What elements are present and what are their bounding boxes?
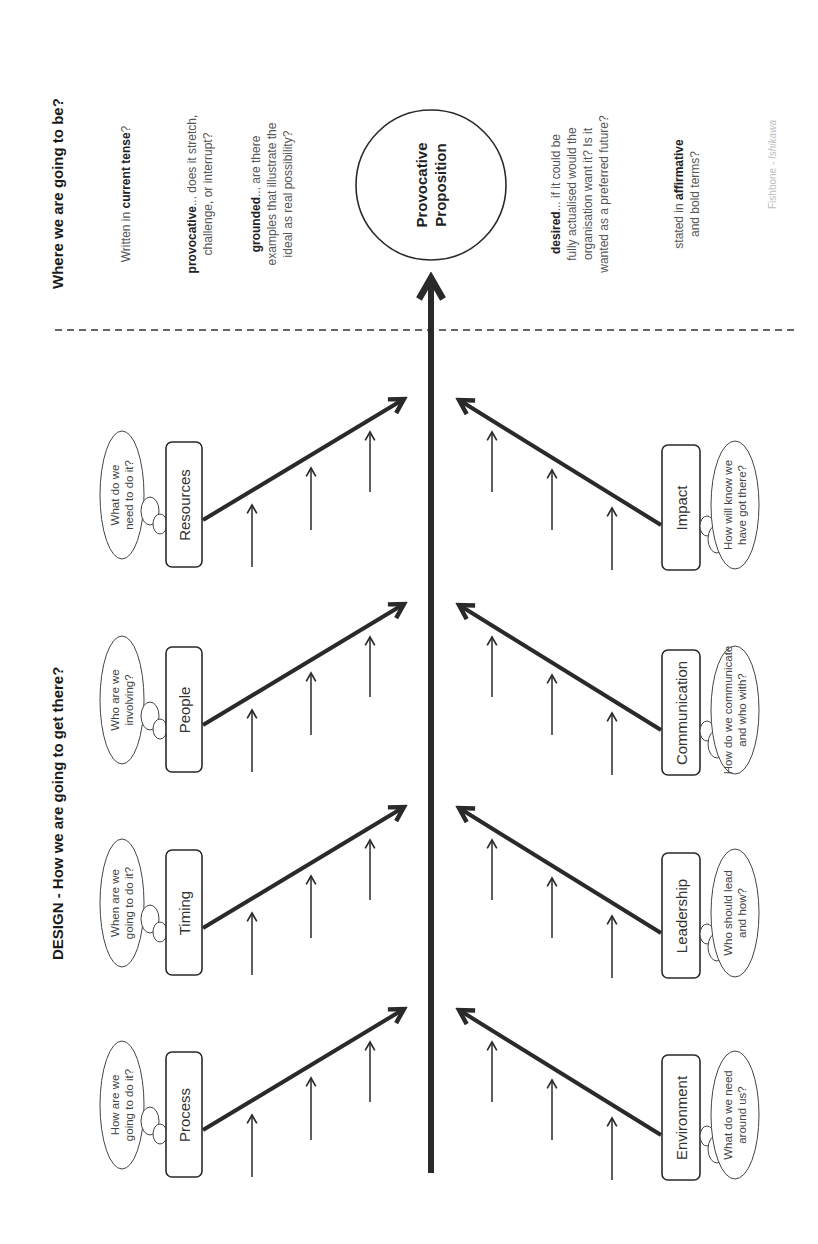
branch-impact: Impact How will know we have got there? [459,400,759,570]
branch-label: Resources [176,469,193,541]
svg-text:wanted as a preferred future?: wanted as a preferred future? [597,115,611,274]
branch-label: Process [176,1088,193,1142]
branch-people: Who are we involving? People [100,604,404,772]
branch-label: Communication [673,661,690,765]
head-label-line1: Provocative [413,142,430,227]
criterion-grounded: grounded... are there examples that illu… [249,122,295,265]
svg-text:and bold terms?: and bold terms? [688,151,702,237]
svg-text:examples that illustrate the: examples that illustrate the [265,122,279,265]
branch-question-line1: What do we [109,465,121,526]
branch-timing: When are we going to do it? Timing [100,807,404,975]
credit-text: Fishbone - Ishikawa [767,120,778,209]
branch-question-line2: going to do it? [123,1069,135,1141]
fishbone-diagram: DESIGN - How we are going to get there? … [0,0,818,1244]
provocative-proposition-circle: Provocative Proposition [356,110,506,260]
branch-question-line1: Who should lead [722,870,734,956]
svg-text:organisation want it? Is it: organisation want it? Is it [581,127,595,260]
branch-label: People [176,687,193,734]
branch-question-line1: When are we [109,869,121,937]
branch-process: How are we going to do it? Process [100,1009,404,1177]
branch-question-line2: and who with? [736,673,748,747]
svg-text:desired... if it could be: desired... if it could be [549,134,563,254]
svg-text:stated in affirmative: stated in affirmative [672,139,686,249]
branch-label: Environment [673,1075,690,1160]
branch-communication: Communication How do we communicate and … [459,605,759,775]
branch-question-line1: How will know we [722,460,734,550]
branch-resources: What do we need to do it? Resources [100,399,404,567]
branch-question-line2: involving? [123,674,135,725]
criterion-affirmative: stated in affirmative and bold terms? [672,139,702,249]
branch-question-line2: and how? [736,888,748,938]
branch-question-line2: around us? [736,1086,748,1144]
branch-label: Leadership [673,879,690,953]
branch-leadership: Leadership Who should lead and how? [459,808,759,978]
head-label-line2: Proposition [432,143,449,226]
svg-text:provocative... does it stretch: provocative... does it stretch, [185,115,199,274]
destiny-heading: Where we are going to be? [49,98,66,289]
svg-text:challenge, or interrupt?: challenge, or interrupt? [201,132,215,255]
branch-label: Impact [673,485,690,531]
svg-text:fully actualised would the: fully actualised would the [565,127,579,261]
svg-text:grounded... are there: grounded... are there [249,135,263,252]
branch-question-line2: going to do it? [123,867,135,939]
branch-question-line1: What do we need [722,1070,734,1160]
branch-question-line1: Who are we [109,669,121,730]
criterion-provocative: provocative... does it stretch, challeng… [185,115,215,274]
branch-question-line1: How are we [109,1075,121,1136]
branch-question-line2: have got there? [736,465,748,545]
design-heading: DESIGN - How we are going to get there? [49,667,66,960]
branch-environment: Environment What do we need around us? [459,1010,759,1180]
branch-question-line2: need to do it? [123,460,135,530]
branch-question-line1: How do we communicate [722,646,734,774]
branch-label: Timing [176,891,193,935]
criterion-current-tense: Written in current tense? [119,125,133,262]
criterion-desired: desired... if it could be fully actualis… [549,115,611,274]
svg-text:ideal as real possibility?: ideal as real possibility? [281,130,295,257]
